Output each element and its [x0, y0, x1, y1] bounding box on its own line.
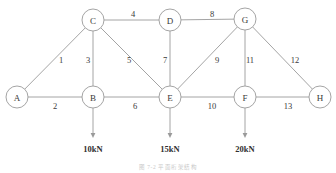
member-label-13: 13 — [284, 101, 293, 111]
load-label-F: 20kN — [235, 144, 255, 154]
member-12 — [253, 27, 313, 89]
member-label-9: 9 — [215, 55, 219, 65]
load-label-E: 15kN — [160, 144, 180, 154]
member-8 — [181, 19, 234, 20]
member-label-6: 6 — [133, 101, 137, 111]
node-D: D — [159, 9, 181, 31]
node-label-E: E — [167, 93, 173, 103]
node-H: H — [309, 86, 331, 108]
node-label-C: C — [90, 16, 96, 26]
member-label-1: 1 — [59, 55, 63, 65]
node-label-F: F — [242, 93, 247, 103]
member-label-8: 8 — [210, 9, 214, 19]
load-labels-group: 10kN15kN20kN — [83, 144, 255, 154]
node-A: A — [6, 86, 28, 108]
load-arrow-head-F — [243, 133, 248, 138]
member-label-5: 5 — [127, 55, 131, 65]
node-G: G — [234, 8, 256, 30]
loads-group — [91, 108, 248, 138]
member-label-2: 2 — [53, 101, 57, 111]
figure-canvas: ABCDEFGH 12345678910111213 10kN15kN20kN … — [0, 0, 336, 173]
load-arrow-head-B — [91, 133, 96, 138]
member-label-11: 11 — [246, 55, 254, 65]
node-F: F — [234, 86, 256, 108]
member-label-4: 4 — [131, 9, 136, 19]
member-1 — [25, 28, 86, 89]
member-label-12: 12 — [291, 55, 300, 65]
member-9 — [178, 27, 238, 89]
member-5 — [101, 28, 162, 89]
member-label-7: 7 — [163, 55, 167, 65]
node-B: B — [82, 86, 104, 108]
figure-caption: 图 7-2 平面桁架结构 — [139, 163, 197, 171]
node-label-G: G — [242, 15, 249, 25]
member-label-10: 10 — [208, 101, 217, 111]
load-label-B: 10kN — [83, 144, 103, 154]
node-E: E — [159, 86, 181, 108]
truss-diagram: ABCDEFGH 12345678910111213 10kN15kN20kN … — [0, 0, 336, 173]
node-label-D: D — [167, 16, 174, 26]
member-label-3: 3 — [86, 55, 90, 65]
node-label-B: B — [90, 93, 96, 103]
node-C: C — [82, 9, 104, 31]
node-label-A: A — [14, 93, 21, 103]
node-label-H: H — [317, 93, 324, 103]
load-arrow-head-E — [168, 133, 173, 138]
